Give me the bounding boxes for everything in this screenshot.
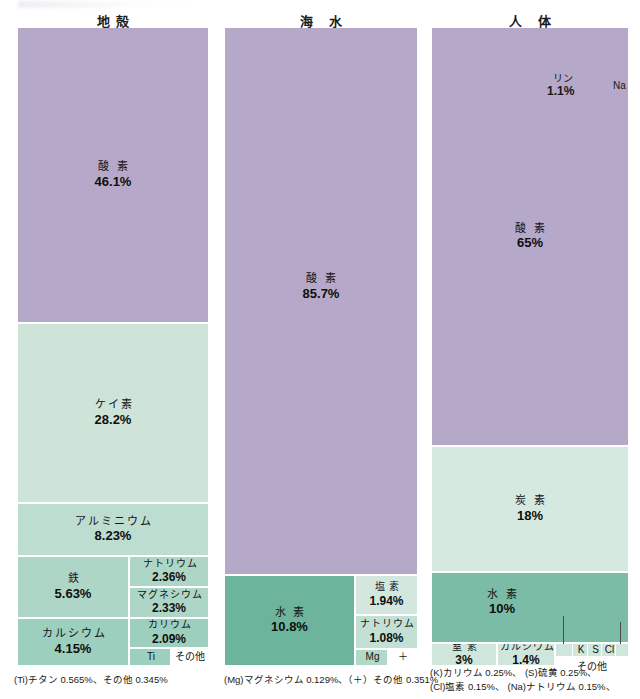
cell-value: 2.09% <box>152 632 186 647</box>
cell-value: 10% <box>489 601 515 617</box>
cell-label: ナトリウム <box>358 618 415 631</box>
label-body-sodium-symbol: Na <box>613 80 626 91</box>
leader-line-phosphorus <box>563 616 564 644</box>
cell-seawater-hydrogen: 水 素 10.8% <box>225 574 354 665</box>
cell-symbol: ＋ <box>396 651 408 664</box>
cell-symbol: Ti <box>145 651 155 664</box>
cell-body-oxygen: 酸 素 65% <box>432 28 628 445</box>
cell-label: 鉄 <box>66 572 81 586</box>
footnote-humanbody-line1: (K)カリウム 0.25%、 (S)硫黄 0.25%、 <box>430 665 597 679</box>
footnote-crust: (Ti)チタン 0.565%、その他 0.345% <box>14 672 168 686</box>
cell-body-calcium: カルシウム 1.4% <box>496 642 554 665</box>
cell-body-nitrogen: 窒 素 3% <box>432 642 496 665</box>
cell-crust-silicon: ケイ素 28.2% <box>18 322 208 502</box>
cell-label: 窒 素 <box>450 642 478 653</box>
cell-crust-magnesium: マグネシウム 2.33% <box>128 586 208 617</box>
cell-value: 3% <box>455 653 472 665</box>
cell-body-carbon: 炭 素 18% <box>432 445 628 571</box>
cell-crust-titanium: Ti <box>128 647 170 665</box>
cell-value: 1.94% <box>369 594 403 609</box>
cell-label: 酸 素 <box>96 160 129 174</box>
cell-label: 酸 素 <box>513 222 546 236</box>
cell-crust-calcium: カルシウム 4.15% <box>18 617 128 665</box>
cell-label: アルミニウム <box>73 515 153 529</box>
cell-seawater-other: ＋ <box>387 648 417 665</box>
cell-label: カルシウム <box>498 642 555 653</box>
scan-artifact <box>18 1 198 8</box>
cell-symbol: Mg <box>364 651 380 664</box>
column-humanbody: 酸 素 65% 炭 素 18% 水 素 10% 窒 素 3% カルシウム 1.4… <box>432 28 628 665</box>
footnote-humanbody-line2: (Cl)塩素 0.15%、 (Na)ナトリウム 0.15%、 <box>430 679 616 693</box>
cell-value: 10.8% <box>271 619 308 635</box>
cell-crust-other: その他 <box>170 647 208 665</box>
cell-seawater-oxygen: 酸 素 85.7% <box>225 28 417 574</box>
cell-value: 1.4% <box>512 653 539 665</box>
cell-value: 2.36% <box>152 570 186 585</box>
cell-label: 炭 素 <box>513 494 546 508</box>
cell-label: マグネシウム <box>135 589 203 602</box>
cell-body-hydrogen: 水 素 10% <box>432 571 628 642</box>
cell-crust-oxygen: 酸 素 46.1% <box>18 28 208 322</box>
cell-value: 28.2% <box>95 412 132 428</box>
cell-value: 1.08% <box>369 631 403 646</box>
footnote-seawater: (Mg)マグネシウム 0.129%、（＋）その他 0.351% <box>224 672 438 686</box>
column-seawater: 酸 素 85.7% 水 素 10.8% 塩 素 1.94% ナトリウム 1.08… <box>225 28 417 665</box>
cell-crust-potassium: カリウム 2.09% <box>128 617 208 647</box>
cell-crust-aluminium: アルミニウム 8.23% <box>18 502 208 555</box>
cell-seawater-sodium: ナトリウム 1.08% <box>354 614 417 648</box>
label-body-phosphorus-name: リン <box>553 70 573 85</box>
cell-label: カルシウム <box>40 627 107 641</box>
column-crust: 酸 素 46.1% ケイ素 28.2% アルミニウム 8.23% 鉄 5.63%… <box>18 28 208 665</box>
cell-value: 2.33% <box>152 601 186 616</box>
cell-crust-sodium: ナトリウム 2.36% <box>128 555 208 586</box>
cell-label: その他 <box>173 651 205 664</box>
cell-label: ケイ素 <box>93 398 134 412</box>
cell-seawater-magnesium: Mg <box>354 648 387 665</box>
cell-value: 46.1% <box>95 174 132 190</box>
cell-seawater-chlorine: 塩 素 1.94% <box>354 574 417 614</box>
cell-label: ナトリウム <box>141 558 198 571</box>
leader-line-sodium <box>620 622 621 644</box>
cell-value: 4.15% <box>55 641 92 657</box>
cell-value: 18% <box>517 508 543 524</box>
cell-label: 酸 素 <box>304 272 337 286</box>
cell-label: カリウム <box>146 619 192 632</box>
cell-crust-iron: 鉄 5.63% <box>18 555 128 617</box>
cell-value: 8.23% <box>95 528 132 544</box>
cell-label: 塩 素 <box>373 581 401 594</box>
cell-symbol: Cl <box>603 644 614 657</box>
cell-label: 水 素 <box>273 606 306 620</box>
cell-symbol: S <box>590 644 599 657</box>
cell-value: 65% <box>517 235 543 251</box>
chart-canvas: 地殻 酸 素 46.1% ケイ素 28.2% アルミニウム 8.23% 鉄 5.… <box>0 0 640 699</box>
cell-label: 水 素 <box>485 588 518 602</box>
cell-symbol: K <box>576 644 585 657</box>
label-body-phosphorus-value: 1.1% <box>547 84 574 98</box>
cell-value: 85.7% <box>303 286 340 302</box>
cell-value: 5.63% <box>55 586 92 602</box>
